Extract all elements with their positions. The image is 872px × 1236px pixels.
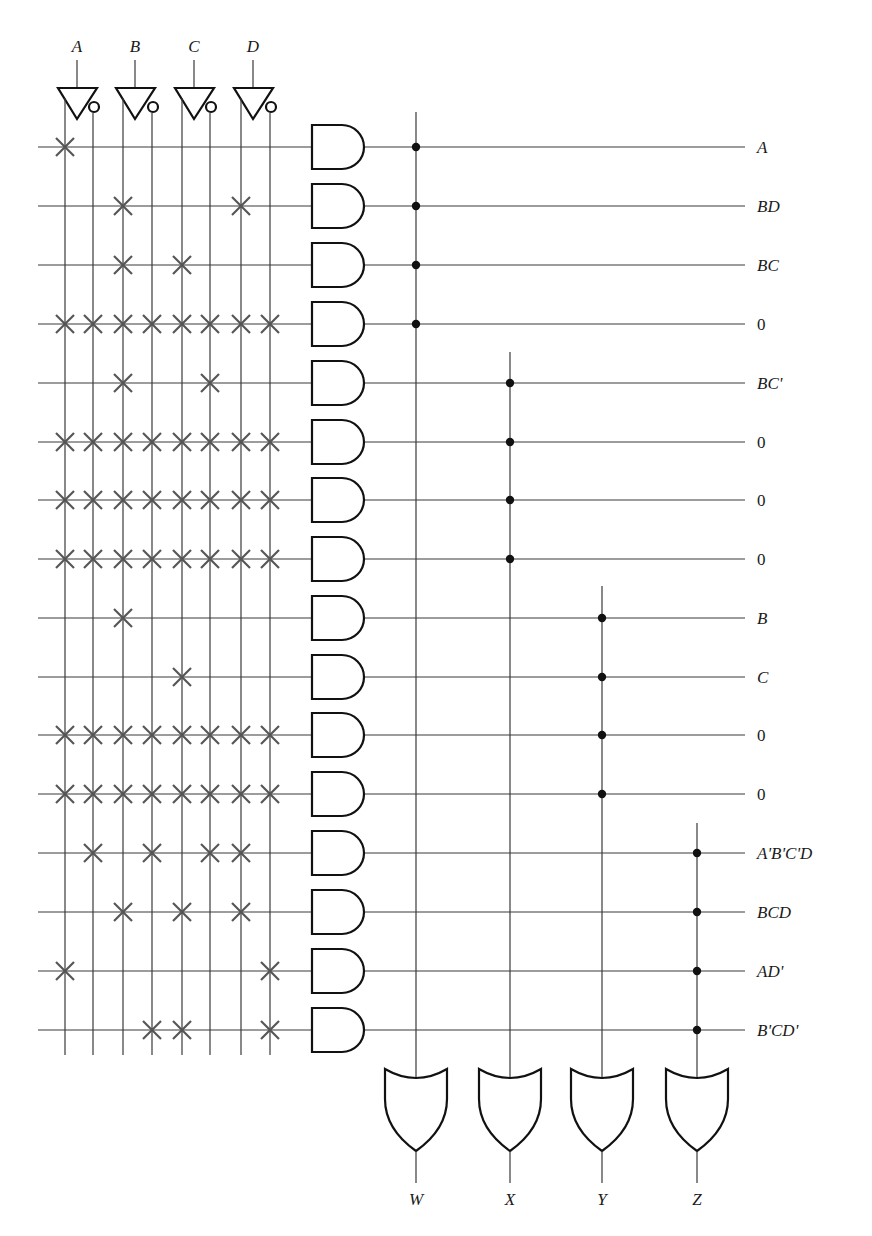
output-label: W: [409, 1190, 425, 1209]
and-gate-icon: [312, 243, 364, 287]
inverter-bubble-icon: [89, 102, 99, 112]
pla-diagram: ABCD WXYZ ABDBC0BC'000BC00A'B'C'DBCDAD'B…: [0, 0, 872, 1236]
connection-dot: [598, 790, 606, 798]
output-label: Z: [692, 1190, 702, 1209]
input-label: B: [130, 37, 141, 56]
output-label: X: [504, 1190, 516, 1209]
and-gate-icon: [312, 125, 364, 169]
connection-dot: [506, 555, 514, 563]
product-term-label: C: [757, 668, 769, 687]
inverter-c: C: [175, 37, 216, 119]
inverter-d: D: [234, 37, 276, 119]
output-label: Y: [597, 1190, 608, 1209]
or-gate-icon: [666, 1069, 728, 1151]
and-gate-icon: [312, 713, 364, 757]
connection-dot: [506, 438, 514, 446]
inverter-bubble-icon: [206, 102, 216, 112]
and-gate-icon: [312, 420, 364, 464]
product-term-label: B: [757, 609, 768, 628]
product-term-label: 0: [757, 726, 766, 745]
input-label: C: [188, 37, 200, 56]
connection-dot: [598, 614, 606, 622]
fuse-marks: [56, 138, 279, 1039]
term-labels: ABDBC0BC'000BC00A'B'C'DBCDAD'B'CD': [756, 138, 813, 1040]
inverter-a: A: [58, 37, 99, 119]
and-gates: [312, 125, 701, 1052]
connection-dot: [693, 967, 701, 975]
connection-dot: [506, 496, 514, 504]
connection-dot: [693, 849, 701, 857]
product-term-rows: [38, 112, 745, 1079]
connection-dot: [693, 908, 701, 916]
or-gate-icon: [385, 1069, 447, 1151]
product-term-label: A'B'C'D: [756, 844, 813, 863]
inverter-bubble-icon: [148, 102, 158, 112]
connection-dot: [412, 143, 420, 151]
product-term-label: 0: [757, 550, 766, 569]
product-term-label: BD: [757, 197, 780, 216]
connection-dot: [693, 1026, 701, 1034]
connection-dot: [598, 673, 606, 681]
input-label: A: [71, 37, 83, 56]
product-term-label: 0: [757, 491, 766, 510]
inverter-bubble-icon: [266, 102, 276, 112]
product-term-label: AD': [756, 962, 784, 981]
product-term-label: BCD: [757, 903, 792, 922]
input-inverters: ABCD: [58, 37, 276, 119]
or-gate-x: X: [479, 1069, 541, 1209]
input-label: D: [246, 37, 260, 56]
or-gate-w: W: [385, 1069, 447, 1209]
and-gate-icon: [312, 596, 364, 640]
or-gates: WXYZ: [385, 1069, 728, 1209]
and-gate-icon: [312, 478, 364, 522]
and-gate-icon: [312, 1008, 364, 1052]
product-term-label: 0: [757, 785, 766, 804]
or-gate-y: Y: [571, 1069, 633, 1209]
product-term-label: 0: [757, 315, 766, 334]
connection-dot: [412, 320, 420, 328]
and-gate-icon: [312, 890, 364, 934]
connection-dot: [598, 731, 606, 739]
and-gate-icon: [312, 537, 364, 581]
or-gate-icon: [479, 1069, 541, 1151]
and-gate-icon: [312, 831, 364, 875]
product-term-label: 0: [757, 433, 766, 452]
product-term-label: B'CD': [757, 1021, 799, 1040]
and-gate-icon: [312, 949, 364, 993]
product-term-label: BC': [757, 374, 783, 393]
or-gate-icon: [571, 1069, 633, 1151]
and-gate-icon: [312, 655, 364, 699]
connection-dot: [412, 202, 420, 210]
and-gate-icon: [312, 302, 364, 346]
connection-dot: [412, 261, 420, 269]
connection-dot: [506, 379, 514, 387]
or-gate-z: Z: [666, 1069, 728, 1209]
and-gate-icon: [312, 184, 364, 228]
and-gate-icon: [312, 361, 364, 405]
product-term-label: A: [756, 138, 768, 157]
product-term-label: BC: [757, 256, 779, 275]
inverter-b: B: [116, 37, 158, 119]
and-gate-icon: [312, 772, 364, 816]
